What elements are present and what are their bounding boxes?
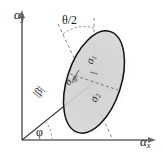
x-axis-label: αx (140, 135, 150, 150)
phi-angle-arc (46, 122, 52, 141)
y-axis-label-symbol: α (14, 7, 21, 22)
x-axis-label-symbol: α (140, 134, 147, 149)
phi-angle-label: φ (36, 126, 43, 138)
y-axis-label: αy (14, 8, 24, 23)
x-axis-label-subscript: x (147, 141, 151, 150)
error-ellipse-figure: αy αx θ/2 |β| φ σ1 σ2 σeff (0, 0, 164, 160)
theta-half-label: θ/2 (62, 14, 77, 26)
y-axis-label-subscript: y (21, 14, 25, 23)
y-axis (19, 10, 25, 140)
